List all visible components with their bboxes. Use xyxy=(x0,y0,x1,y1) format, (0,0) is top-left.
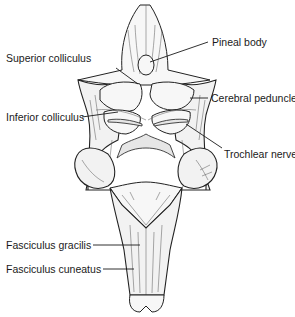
brainstem-diagram: Superior colliculus Pineal body Cerebral… xyxy=(0,0,295,317)
label-pineal-body: Pineal body xyxy=(212,36,267,48)
peduncle-lobe-left xyxy=(75,148,115,188)
pineal-body xyxy=(138,55,154,75)
label-fasciculus-cuneatus: Fasciculus cuneatus xyxy=(6,263,101,275)
spinal-cord-end xyxy=(129,295,164,312)
label-trochlear-nerve: Trochlear nerve xyxy=(224,148,295,160)
label-inferior-colliculus: Inferior colliculus xyxy=(6,111,84,123)
label-fasciculus-gracilis: Fasciculus gracilis xyxy=(6,239,91,251)
peduncle-lobe-right xyxy=(178,148,217,188)
label-superior-colliculus: Superior colliculus xyxy=(6,52,91,64)
fourth-ventricle xyxy=(117,134,175,158)
label-cerebral-peduncle: Cerebral peduncle xyxy=(211,92,295,104)
